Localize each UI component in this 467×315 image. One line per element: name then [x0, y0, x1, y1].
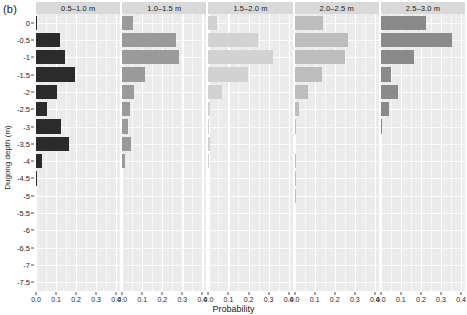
y-tick-label: -3 [23, 122, 30, 131]
x-tick-label: 0.3 [436, 296, 446, 303]
gridline-vertical [182, 14, 183, 291]
y-tick-label: -2.5 [17, 105, 30, 114]
y-tick-label: -4 [23, 157, 30, 166]
gridline-vertical-minor [365, 14, 366, 291]
bar [208, 102, 209, 116]
gridline-horizontal [36, 213, 120, 214]
y-tick-label: -6 [23, 226, 30, 235]
x-tick-label: 0.4 [456, 296, 466, 303]
bar [122, 16, 133, 30]
bar [36, 137, 69, 151]
y-tick-mark [31, 22, 34, 23]
x-tick-mark [122, 292, 123, 295]
gridline-vertical [355, 14, 356, 291]
x-tick-mark [354, 292, 355, 295]
facet-plot-body [208, 14, 292, 291]
gridline-vertical-minor [431, 14, 432, 291]
facet-plot-body [36, 14, 120, 291]
gridline-horizontal [295, 144, 379, 145]
bar [295, 67, 322, 81]
gridline-horizontal [381, 196, 465, 197]
gridline-vertical [461, 14, 462, 291]
gridline-horizontal [295, 109, 379, 110]
y-tick-mark [31, 143, 34, 144]
gridline-horizontal [208, 265, 292, 266]
figure-panel-b: (b) Dugong depth (m) 0-0.5-1-1.5-2-2.5-3… [0, 0, 467, 315]
x-tick-mark [162, 292, 163, 295]
x-tick-mark [248, 292, 249, 295]
facet-panel-1: 0.5–1.0 m [36, 2, 120, 291]
x-tick-mark [56, 292, 57, 295]
y-tick-label: -2 [23, 87, 30, 96]
gridline-horizontal [36, 178, 120, 179]
gridline-horizontal [122, 127, 206, 128]
bar [381, 102, 389, 116]
gridline-horizontal [122, 144, 206, 145]
x-tick-mark [202, 292, 203, 295]
gridline-horizontal [295, 213, 379, 214]
gridline-horizontal [381, 127, 465, 128]
facet-plot-body [122, 14, 206, 291]
bar [381, 50, 414, 64]
bar [295, 171, 296, 185]
plot-area: 0.5–1.0 m1.0–1.5 m1.5–2.0 m2.0–2.5 m2.5–… [36, 2, 465, 291]
gridline-horizontal [122, 92, 206, 93]
y-tick-mark [31, 178, 34, 179]
gridline-vertical-minor [192, 14, 193, 291]
bar [122, 102, 130, 116]
gridline-horizontal [36, 282, 120, 283]
gridline-horizontal [208, 178, 292, 179]
gridline-horizontal [122, 178, 206, 179]
x-tick-mark [142, 292, 143, 295]
gridline-horizontal [122, 248, 206, 249]
gridline-horizontal [122, 161, 206, 162]
x-tick-mark [294, 292, 295, 295]
gridline-horizontal [295, 282, 379, 283]
bar [36, 171, 37, 185]
x-tick-mark [314, 292, 315, 295]
x-tick-mark [420, 292, 421, 295]
bar [381, 67, 391, 81]
bar [122, 85, 134, 99]
x-tick-label: 0.2 [71, 296, 81, 303]
gridline-horizontal [208, 127, 292, 128]
y-tick-label: -3.5 [17, 139, 30, 148]
bar [208, 154, 209, 168]
x-tick-mark [182, 292, 183, 295]
bar [295, 16, 323, 30]
x-tick-label: 0.2 [330, 296, 340, 303]
bar [295, 189, 296, 203]
y-tick-mark [31, 247, 34, 248]
x-tick-label: 0.1 [51, 296, 61, 303]
y-tick-label: -0.5 [17, 35, 30, 44]
bar [208, 85, 222, 99]
bar [36, 119, 61, 133]
x-tick-mark [374, 292, 375, 295]
bar [36, 16, 37, 30]
gridline-horizontal [36, 161, 120, 162]
y-tick-mark [31, 109, 34, 110]
gridline-horizontal [36, 230, 120, 231]
bar [381, 85, 398, 99]
facet-strip-label: 1.0–1.5 m [122, 2, 206, 14]
gridline-horizontal [295, 161, 379, 162]
x-tick-label: 0.1 [224, 296, 234, 303]
gridline-horizontal [122, 213, 206, 214]
gridline-horizontal [208, 282, 292, 283]
bar [36, 50, 65, 64]
gridline-horizontal [381, 230, 465, 231]
x-axis-title: Probability [0, 304, 467, 314]
x-tick-mark [400, 292, 401, 295]
gridline-horizontal [295, 248, 379, 249]
y-tick-mark [31, 39, 34, 40]
bar [208, 119, 209, 133]
x-tick-label: 0.2 [416, 296, 426, 303]
gridline-horizontal [36, 265, 120, 266]
facet-panel-2: 1.0–1.5 m [122, 2, 206, 291]
bar [122, 67, 145, 81]
y-tick-label: -7 [23, 261, 30, 270]
bar [122, 154, 124, 168]
gridline-horizontal [295, 196, 379, 197]
y-tick-mark [31, 195, 34, 196]
y-tick-mark [31, 126, 34, 127]
